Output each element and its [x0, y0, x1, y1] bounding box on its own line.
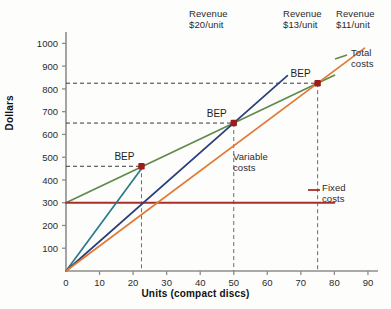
series-label-revenue-11: Revenue $11/unit [336, 8, 375, 30]
series-line-total-costs [66, 75, 334, 202]
series-line-revenue-20-unit [66, 165, 144, 271]
total-costs-leader [335, 55, 347, 59]
annotation-variable-costs: Variable costs [233, 151, 268, 173]
series-label-line2: costs [322, 193, 346, 204]
x-tick-label: 0 [63, 277, 68, 288]
series-label-line2: $20/unit [189, 19, 228, 30]
x-tick-label: 90 [363, 277, 374, 288]
series-label-revenue-20: Revenue $20/unit [189, 8, 228, 30]
x-axis-title: Units (compact discs) [0, 288, 391, 299]
annotation-line2: costs [233, 162, 268, 173]
y-tick-label: 400 [42, 175, 58, 186]
series-label-line2: $13/unit [283, 19, 322, 30]
y-tick-label: 900 [42, 61, 58, 72]
bep-marker-2 [314, 80, 320, 86]
bep-label-1: BEP [207, 108, 227, 119]
series-label-line1: Revenue [336, 8, 375, 19]
x-tick-label: 70 [296, 277, 307, 288]
series-label-line1: Revenue [283, 8, 322, 19]
x-tick-label: 30 [161, 277, 172, 288]
y-tick-label: 600 [42, 129, 58, 140]
y-axis-title: Dollars [4, 117, 15, 131]
x-tick-label: 50 [228, 277, 239, 288]
series-label-total-costs: Total costs [351, 47, 374, 69]
y-tick-label: 500 [42, 152, 58, 163]
x-tick-label: 10 [94, 277, 105, 288]
x-tick-label: 40 [195, 277, 206, 288]
series-label-line1: Total [351, 47, 374, 58]
y-tick-label: 100 [42, 243, 58, 254]
series-label-line2: $11/unit [336, 19, 375, 30]
y-tick-label: 700 [42, 106, 58, 117]
bep-marker-1 [231, 120, 237, 126]
bep-label-0: BEP [114, 151, 134, 162]
y-tick-label: 800 [42, 84, 58, 95]
x-tick-label: 80 [329, 277, 340, 288]
y-tick-label: 200 [42, 220, 58, 231]
bep-marker-0 [138, 163, 144, 169]
series-label-revenue-13: Revenue $13/unit [283, 8, 322, 30]
series-label-line1: Revenue [189, 8, 228, 19]
series-label-fixed-costs: Fixed costs [322, 182, 346, 204]
annotation-line1: Variable [233, 151, 268, 162]
series-label-line1: Fixed [322, 182, 346, 193]
bep-label-2: BEP [291, 68, 311, 79]
y-tick-label: 1000 [37, 38, 58, 49]
x-tick-label: 60 [262, 277, 273, 288]
x-tick-label: 20 [128, 277, 139, 288]
chart-canvas: 1002003004005006007008009001000010203040… [0, 0, 391, 309]
series-line-revenue-13-unit [66, 76, 287, 271]
y-tick-label: 300 [42, 197, 58, 208]
series-label-line2: costs [351, 58, 374, 69]
breakeven-chart: 1002003004005006007008009001000010203040… [0, 0, 391, 309]
